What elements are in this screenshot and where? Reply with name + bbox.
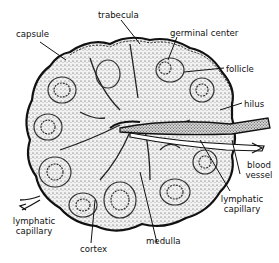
afferent-lymphatic bbox=[20, 196, 40, 210]
label-lymphatic-capillary-left-line2: capillary bbox=[10, 226, 58, 236]
label-blood-vessel: blood vessel bbox=[242, 160, 276, 180]
label-lymphatic-capillary-right-line2: capillary bbox=[218, 204, 266, 214]
label-lymphatic-capillary-right: lymphatic capillary bbox=[218, 194, 266, 214]
label-lymphatic-capillary-right-line1: lymphatic bbox=[218, 194, 266, 204]
label-hilus: hilus bbox=[244, 99, 264, 109]
label-lymphatic-capillary-left: lymphatic capillary bbox=[10, 216, 58, 236]
label-medulla: medulla bbox=[146, 236, 181, 246]
lymph-node-diagram: capsule trabecula germinal center follic… bbox=[0, 0, 279, 263]
label-capsule: capsule bbox=[16, 29, 49, 39]
label-blood-vessel-line2: vessel bbox=[242, 170, 276, 180]
label-germinal-center: germinal center bbox=[170, 28, 238, 38]
label-trabecula: trabecula bbox=[98, 10, 139, 20]
label-cortex: cortex bbox=[80, 244, 107, 254]
label-follicle: follicle bbox=[226, 64, 254, 74]
label-blood-vessel-line1: blood bbox=[242, 160, 276, 170]
label-lymphatic-capillary-left-line1: lymphatic bbox=[10, 216, 58, 226]
